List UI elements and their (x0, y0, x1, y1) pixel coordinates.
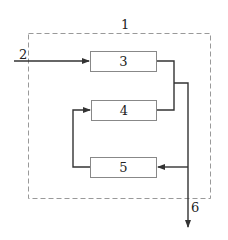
merge-line (174, 83, 188, 227)
boundary-label: 1 (121, 18, 129, 31)
block-5-label: 5 (90, 161, 157, 174)
input-label: 2 (19, 48, 27, 61)
block-3-label: 3 (90, 55, 157, 68)
block-4-label: 4 (91, 104, 157, 117)
block5-to-block4-line (73, 110, 90, 167)
output-label: 6 (191, 201, 199, 214)
block3-output-line (157, 61, 174, 110)
